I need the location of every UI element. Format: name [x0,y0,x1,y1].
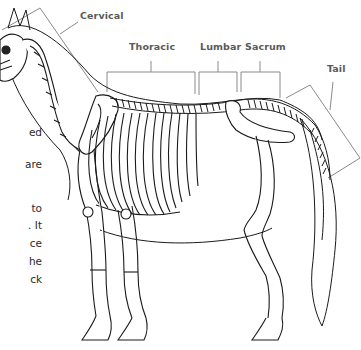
cervical-leader [60,22,78,34]
label-tail: Tail [327,63,346,74]
femur [244,136,261,230]
text-fragment: ce [0,237,42,249]
region-brackets [2,8,360,178]
thoracic-bracket [107,72,195,94]
text-fragment: he [0,255,42,267]
horse-skeleton-diagram: Cervical Thoracic Lumbar Sacrum Tail ed … [0,0,361,350]
pelvis-and-hindlimb [226,101,295,340]
lumbar-bracket [199,72,237,95]
label-sacrum: Sacrum [245,41,286,52]
text-fragment: to [0,202,42,214]
label-lumbar: Lumbar [200,41,241,52]
sacrum-bracket [241,72,280,98]
text-fragment: are [0,158,42,170]
tail-leader [330,82,333,110]
rib-cage [89,113,198,215]
label-cervical: Cervical [80,10,124,21]
text-fragment: ck [0,273,42,285]
text-fragment: . It [0,219,42,231]
text-fragment: ed [0,126,42,138]
body-outline [8,8,336,326]
skeleton-drawing [0,0,361,350]
label-thoracic: Thoracic [129,41,175,52]
